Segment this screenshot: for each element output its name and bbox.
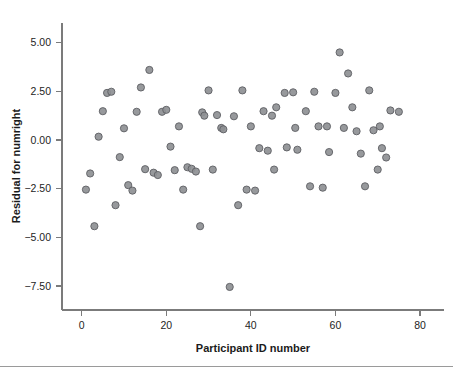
- data-point: [230, 113, 237, 120]
- data-point: [387, 107, 394, 114]
- data-point: [302, 108, 309, 115]
- data-point: [361, 183, 368, 190]
- y-tick-label: −5.00: [24, 231, 51, 243]
- data-point: [247, 123, 254, 130]
- data-point: [311, 88, 318, 95]
- y-axis-tick-group: 5.002.500.00−2.50−5.00−7.50: [24, 36, 62, 291]
- data-point: [383, 154, 390, 161]
- data-point: [292, 124, 299, 131]
- data-point: [235, 202, 242, 209]
- data-point: [353, 128, 360, 135]
- data-point: [336, 49, 343, 56]
- data-point: [163, 106, 170, 113]
- data-point: [340, 124, 347, 131]
- data-point: [146, 66, 153, 73]
- data-point: [201, 112, 208, 119]
- y-tick-label: 0.00: [31, 134, 52, 146]
- data-point: [306, 183, 313, 190]
- data-point: [220, 126, 227, 133]
- data-point: [271, 166, 278, 173]
- x-axis-tick-group: 020406080: [79, 310, 426, 331]
- data-point: [213, 111, 220, 118]
- y-tick-label: 2.50: [31, 85, 52, 97]
- data-point: [133, 108, 140, 115]
- data-point: [374, 166, 381, 173]
- data-point-group: [82, 49, 402, 291]
- data-point: [99, 108, 106, 115]
- footer-divider: [0, 366, 453, 367]
- data-point: [142, 166, 149, 173]
- data-point: [87, 170, 94, 177]
- data-point: [323, 123, 330, 130]
- y-tick-label: −2.50: [24, 182, 51, 194]
- data-point: [260, 108, 267, 115]
- data-point: [91, 223, 98, 230]
- x-axis-title: Participant ID number: [196, 342, 311, 354]
- data-point: [192, 168, 199, 175]
- data-point: [129, 187, 136, 194]
- data-point: [116, 154, 123, 161]
- x-tick-label: 80: [414, 319, 426, 331]
- x-tick-label: 0: [79, 319, 85, 331]
- data-point: [283, 144, 290, 151]
- data-point: [82, 186, 89, 193]
- data-point: [205, 87, 212, 94]
- data-point: [281, 89, 288, 96]
- x-tick-label: 60: [330, 319, 342, 331]
- data-point: [251, 187, 258, 194]
- data-point: [370, 127, 377, 134]
- data-point: [209, 166, 216, 173]
- y-tick-label: −7.50: [24, 280, 51, 292]
- data-point: [154, 171, 161, 178]
- data-point: [294, 146, 301, 153]
- data-point: [171, 167, 178, 174]
- data-point: [395, 108, 402, 115]
- x-tick-label: 40: [245, 319, 257, 331]
- data-point: [120, 125, 127, 132]
- x-tick-label: 20: [160, 319, 172, 331]
- data-point: [226, 283, 233, 290]
- data-point: [273, 104, 280, 111]
- data-point: [256, 145, 263, 152]
- data-point: [137, 84, 144, 91]
- data-point: [376, 123, 383, 130]
- data-point: [332, 89, 339, 96]
- data-point: [197, 223, 204, 230]
- data-point: [325, 148, 332, 155]
- data-point: [95, 133, 102, 140]
- scatter-plot-figure: 5.002.500.00−2.50−5.00−7.50 020406080 Pa…: [0, 0, 453, 369]
- data-point: [345, 70, 352, 77]
- data-point: [243, 186, 250, 193]
- data-point: [175, 123, 182, 130]
- y-tick-label: 5.00: [31, 36, 52, 48]
- data-point: [290, 89, 297, 96]
- data-point: [108, 88, 115, 95]
- data-point: [366, 87, 373, 94]
- data-point: [112, 202, 119, 209]
- data-point: [167, 143, 174, 150]
- data-point: [319, 184, 326, 191]
- y-axis-title: Residual for numright: [10, 109, 22, 224]
- data-point: [315, 123, 322, 130]
- data-point: [239, 87, 246, 94]
- plot-canvas: 5.002.500.00−2.50−5.00−7.50 020406080 Pa…: [0, 0, 453, 369]
- data-point: [264, 147, 271, 154]
- data-point: [378, 145, 385, 152]
- data-point: [268, 112, 275, 119]
- data-point: [357, 150, 364, 157]
- data-point: [180, 186, 187, 193]
- data-point: [349, 104, 356, 111]
